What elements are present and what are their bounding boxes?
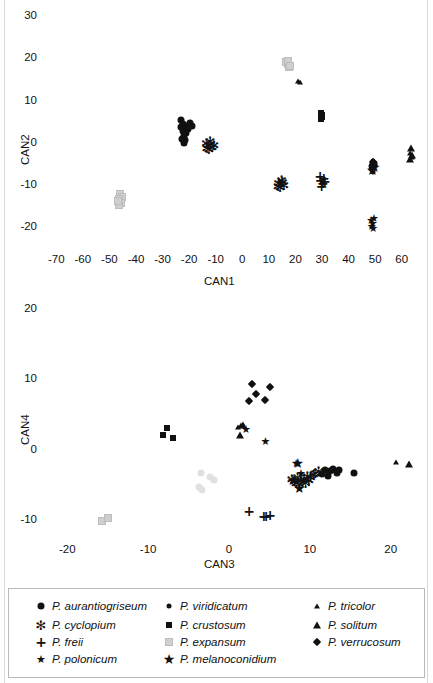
x-tick-label: 0 <box>214 543 244 555</box>
legend-label: P. tricolor <box>328 600 375 612</box>
x-tick-label: -20 <box>174 253 204 265</box>
data-point-circle <box>351 469 358 476</box>
legend-item[interactable]: ★P. melanoconidium <box>161 652 276 666</box>
y-tick-label: 0 <box>11 443 37 455</box>
data-point-asterisk: ✻ <box>205 134 216 147</box>
x-tick-label: 30 <box>307 253 337 265</box>
legend-item[interactable]: P. crustosum <box>161 618 246 632</box>
data-point-square <box>170 435 176 441</box>
triangle-icon <box>313 622 321 629</box>
plot-area-can3-can4: ✻✻✻✻✻✻✻✻✻✻✻✻✻✻++++★★★★★★★★★★ <box>43 302 415 534</box>
legend-label: P. viridicatum <box>180 600 248 612</box>
x-tick-label: 20 <box>376 543 406 555</box>
legend-item[interactable]: ✻P. cyclopium <box>33 618 116 632</box>
data-point-plus: + <box>264 508 276 522</box>
legend-symbol-square-icon <box>161 618 177 632</box>
legend-label: P. melanoconidium <box>180 653 276 665</box>
x-tick-label: 60 <box>387 253 417 265</box>
data-point-star: ★ <box>368 223 378 234</box>
y-axis-title-can4: CAN4 <box>19 414 31 445</box>
data-point-triangle <box>405 461 413 468</box>
y-tick-label: 10 <box>11 372 37 384</box>
y-tick-label: -10 <box>11 513 37 525</box>
figure-page: ✻✻✻✻✻✻✻✻✻✻✻✻✻✻✻++++++★★★★★★★ CAN2 CAN1 3… <box>0 0 433 683</box>
data-point-square-gray <box>114 197 122 205</box>
data-point-circle <box>178 123 185 130</box>
x-tick-label: -70 <box>41 253 71 265</box>
data-point-triangle-small <box>393 460 399 465</box>
plus-icon: + <box>35 635 47 649</box>
data-point-circle-gray <box>207 474 214 481</box>
x-tick-label: -40 <box>121 253 151 265</box>
x-tick-label: -10 <box>133 543 163 555</box>
legend-symbol-square-gray-icon <box>161 635 177 649</box>
legend-label: P. cyclopium <box>52 619 116 631</box>
legend-label: P. aurantiogriseum <box>52 600 147 612</box>
data-point-triangle-small <box>297 80 303 85</box>
legend-symbol-circle-small-icon <box>161 599 177 613</box>
scatter-panel-can3-can4: ✻✻✻✻✻✻✻✻✻✻✻✻✻✻++++★★★★★★★★★★ CAN4 CAN3 2… <box>5 290 427 580</box>
y-tick-label: -20 <box>11 220 37 232</box>
diamond-icon <box>313 638 321 646</box>
legend-symbol-diamond-icon <box>309 635 325 649</box>
data-point-triangle <box>406 155 414 162</box>
data-point-star: ★ <box>260 435 270 446</box>
data-point-circle <box>178 135 185 142</box>
legend-label: P. freii <box>52 636 83 648</box>
legend-symbol-star-large-icon: ★ <box>161 652 177 666</box>
triangle-small-icon <box>314 604 320 609</box>
data-point-diamond <box>251 390 259 398</box>
data-point-square <box>160 432 166 438</box>
y-tick-label: 20 <box>11 302 37 314</box>
legend-item[interactable]: P. verrucosum <box>309 635 401 649</box>
y-tick-label: -10 <box>11 178 37 190</box>
legend-item[interactable]: P. viridicatum <box>161 599 248 613</box>
legend-item[interactable]: +P. freii <box>33 635 83 649</box>
data-point-star-large: ★ <box>293 481 306 495</box>
legend-item[interactable]: P. aurantiogriseum <box>33 599 147 613</box>
y-tick-label: 20 <box>11 51 37 63</box>
data-point-plus: + <box>319 174 331 188</box>
data-point-square <box>319 112 325 118</box>
legend-item[interactable]: P. solitum <box>309 618 377 632</box>
data-point-asterisk: ✻ <box>276 173 287 186</box>
data-point-triangle <box>236 431 244 438</box>
x-tick-label: -50 <box>94 253 124 265</box>
square-gray-icon <box>165 638 173 646</box>
data-point-circle-gray <box>199 486 206 493</box>
legend-symbol-circle-icon <box>33 599 49 613</box>
data-point-square-gray <box>286 62 294 70</box>
legend-symbol-asterisk-icon: ✻ <box>33 618 49 632</box>
legend-label: P. verrucosum <box>328 636 401 648</box>
legend-symbol-plus-icon: + <box>33 635 49 649</box>
scatter-panel-can1-can2: ✻✻✻✻✻✻✻✻✻✻✻✻✻✻✻++++++★★★★★★★ CAN2 CAN1 3… <box>5 0 427 290</box>
data-point-diamond <box>261 396 269 404</box>
data-point-star-large: ★ <box>291 456 304 470</box>
x-tick-label: -60 <box>68 253 98 265</box>
asterisk-icon: ✻ <box>36 619 47 632</box>
legend-label: P. solitum <box>328 619 377 631</box>
x-tick-label: 20 <box>280 253 310 265</box>
data-point-diamond <box>266 383 274 391</box>
x-tick-label: -20 <box>52 543 82 555</box>
y-tick-label: 10 <box>11 94 37 106</box>
legend-item[interactable]: P. expansum <box>161 635 246 649</box>
legend-symbol-triangle-icon <box>309 618 325 632</box>
data-point-asterisk: ✻ <box>313 465 324 478</box>
star-icon: ★ <box>36 654 46 665</box>
legend-item[interactable]: ★P. polonicum <box>33 652 117 666</box>
legend-box: P. aurantiogriseum✻P. cyclopium+P. freii… <box>8 588 425 678</box>
x-tick-label: -10 <box>201 253 231 265</box>
page-right-edge <box>427 0 428 683</box>
x-axis-title-can3: CAN3 <box>204 558 235 570</box>
legend-item[interactable]: P. tricolor <box>309 599 375 613</box>
legend-label: P. polonicum <box>52 653 117 665</box>
x-tick-label: 0 <box>227 253 257 265</box>
star-large-icon: ★ <box>163 652 176 666</box>
data-point-triangle <box>239 422 247 429</box>
legend-symbol-triangle-small-icon <box>309 599 325 613</box>
data-point-circle <box>188 123 195 130</box>
legend-label: P. expansum <box>180 636 246 648</box>
legend-label: P. crustosum <box>180 619 246 631</box>
data-point-circle-gray <box>197 469 204 476</box>
